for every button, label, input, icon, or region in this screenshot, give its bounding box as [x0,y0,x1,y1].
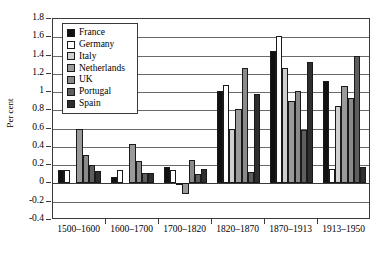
bar [354,56,360,183]
legend-item-uk: UK [67,74,133,86]
y-tick-label: 0 [39,178,44,188]
legend-swatch-icon [67,64,75,72]
bar-group [265,19,318,218]
legend-swatch-icon [67,88,75,96]
y-tick-mark [46,73,51,74]
bar [95,171,101,184]
legend-item-netherlands: Netherlands [67,62,133,74]
y-axis: 1.81.61.41.210.80.60.40.20-0.2-0.4 [0,0,52,255]
legend-swatch-icon [67,100,75,108]
x-tick-mark [211,219,212,224]
x-tick-mark [105,219,106,224]
x-tick-label: 1700–1820 [163,224,206,235]
x-tick-label: 1500–1600 [57,224,100,235]
legend-swatch-icon [67,76,75,84]
legend-label: Spain [79,99,101,109]
y-tick-mark [46,164,51,165]
y-tick-mark [46,91,51,92]
y-tick-label: 0.4 [32,141,44,151]
y-tick-label: 1.8 [32,13,44,23]
legend-swatch-icon [67,41,75,49]
x-tick-label: 1870–1913 [269,224,312,235]
y-tick-label: -0.4 [29,214,44,224]
x-tick-mark [317,219,318,224]
bar [242,68,248,183]
bar [201,169,207,184]
y-tick-mark [46,18,51,19]
bar-group [318,19,371,218]
bar-group [212,19,265,218]
bar [64,170,70,184]
x-tick-label: 1820–1870 [216,224,259,235]
bar [182,183,188,194]
y-tick-mark [46,36,51,37]
y-tick-label: 1.4 [32,50,44,60]
bar [307,62,313,184]
y-tick-label: 1.2 [32,68,44,78]
y-tick-label: 1.6 [32,32,44,42]
x-tick-mark [264,219,265,224]
y-tick-mark [46,201,51,202]
x-axis: 1500–16001600–17001700–18201820–18701870… [52,224,370,244]
y-tick-mark [46,109,51,110]
legend-label: France [79,28,105,38]
x-tick-label: 1600–1700 [110,224,153,235]
legend-item-portugal: Portugal [67,86,133,98]
legend-label: UK [79,75,93,85]
legend-swatch-icon [67,52,75,60]
bar [360,167,366,183]
y-tick-label: 0.2 [32,159,44,169]
legend: FranceGermanyItalyNetherlandsUKPortugalS… [62,23,138,114]
bar-group [159,19,212,218]
bar [170,170,176,184]
y-tick-mark [46,128,51,129]
y-tick-label: 0.8 [32,105,44,115]
bar [148,173,154,183]
bar-chart: Per cent 1.81.61.41.210.80.60.40.20-0.2-… [0,0,388,255]
legend-item-germany: Germany [67,39,133,51]
y-tick-mark [46,182,51,183]
legend-item-italy: Italy [67,51,133,63]
y-tick-mark [46,55,51,56]
legend-item-spain: Spain [67,98,133,110]
legend-label: Germany [79,40,114,50]
y-tick-mark [46,219,51,220]
x-tick-mark [158,219,159,224]
legend-label: Netherlands [79,64,125,74]
legend-item-france: France [67,27,133,39]
y-tick-mark [46,146,51,147]
x-tick-label: 1913–1950 [322,224,365,235]
bar [254,94,260,184]
legend-label: Portugal [79,87,111,97]
bar [117,170,123,184]
y-tick-label: 0.6 [32,123,44,133]
y-tick-label: 1 [39,86,44,96]
y-tick-label: -0.2 [29,196,44,206]
legend-swatch-icon [67,29,75,37]
legend-label: Italy [79,52,96,62]
